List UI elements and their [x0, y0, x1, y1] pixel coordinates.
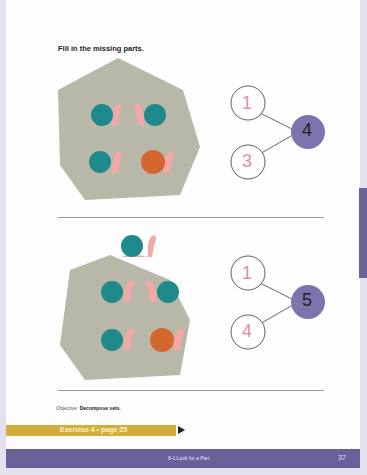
part-1-value[interactable]: 1	[242, 263, 252, 284]
snail-teal	[146, 280, 180, 303]
part-1-value[interactable]: 1	[242, 93, 252, 114]
snail-teal	[100, 280, 134, 303]
objective: Objective: Decompose sets.	[56, 405, 121, 411]
footer-lesson-title: 8-1 Look for a Part	[168, 455, 209, 461]
part-2-value[interactable]: 3	[242, 151, 252, 172]
section-divider	[58, 390, 324, 391]
chapter-side-tab	[359, 188, 367, 278]
whole-value: 4	[302, 120, 312, 141]
instruction-text: Fill in the missing parts.	[58, 44, 144, 53]
page-number: 37	[338, 454, 346, 461]
snail-teal	[100, 328, 134, 351]
objective-label: Objective:	[56, 405, 78, 411]
snail-orange	[140, 150, 174, 174]
part-2-value[interactable]: 4	[242, 321, 252, 342]
problem-2-rock-illustration	[40, 225, 205, 385]
exercise-label: Exercise 4 • page 25	[60, 426, 127, 433]
snail-teal	[120, 235, 156, 257]
arrow-right-icon	[178, 426, 185, 434]
objective-text: Decompose sets.	[80, 405, 121, 411]
section-divider	[58, 217, 324, 218]
snail-orange	[150, 328, 184, 352]
snail-teal	[88, 151, 122, 173]
problem-1-rock-illustration	[40, 55, 205, 205]
whole-value: 5	[302, 290, 312, 311]
